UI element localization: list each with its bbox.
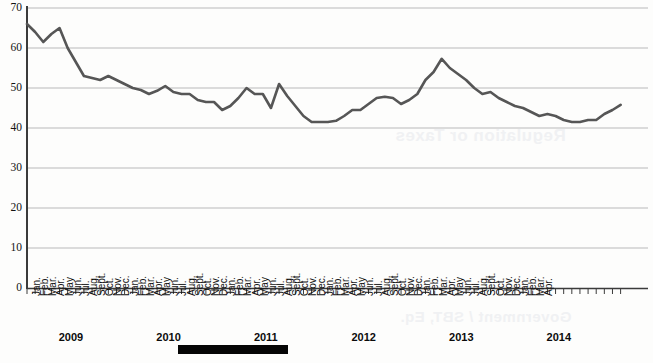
chart-figure: Regulation or Taxes Government / SBT, Eq… [0, 0, 653, 363]
x-axis-tick-label: Apr. [543, 278, 554, 296]
y-axis-tick-label: 40 [0, 121, 22, 133]
y-axis-tick-label: 10 [0, 241, 22, 253]
y-axis-tick-label: 0 [0, 281, 22, 293]
y-axis-tick-label: 60 [0, 41, 22, 53]
year-label: 2013 [449, 331, 473, 343]
black-marker-bar [178, 345, 288, 354]
y-axis-tick-label: 20 [0, 201, 22, 213]
year-label: 2009 [59, 331, 83, 343]
year-label: 2011 [254, 331, 278, 343]
year-label: 2010 [156, 331, 180, 343]
year-label: 2012 [351, 331, 375, 343]
y-axis-tick-label: 30 [0, 161, 22, 173]
gridlines-group [27, 8, 648, 248]
data-series-line [27, 24, 621, 122]
y-axis-tick-label: 50 [0, 81, 22, 93]
plot-area [0, 0, 653, 363]
y-axis-tick-label: 70 [0, 1, 22, 13]
year-label: 2014 [547, 331, 571, 343]
